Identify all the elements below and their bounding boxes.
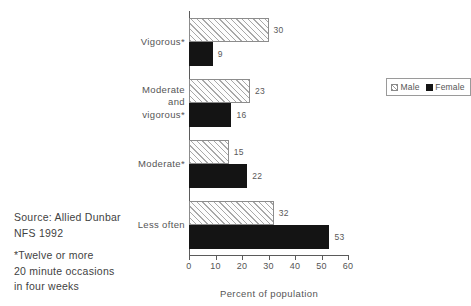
source-and-footnote-block: Source: Allied Dunbar NFS 1992 *Twelve o… <box>14 210 179 295</box>
footnote-line-3: in four weeks <box>14 279 179 295</box>
bar-value-label: 23 <box>255 86 265 96</box>
x-axis-tick <box>295 256 296 260</box>
source-line-2: NFS 1992 <box>14 226 179 242</box>
footnote-line-2: 20 minute occasions <box>14 264 179 280</box>
x-axis-title: Percent of population <box>189 288 349 299</box>
bar-male-1 <box>189 79 250 103</box>
category-label-2: Moderate* <box>65 157 185 170</box>
legend-entry-female: Female <box>426 82 465 92</box>
x-axis-tick <box>216 256 217 260</box>
bar-value-label: 32 <box>279 208 289 218</box>
bar-value-label: 16 <box>236 110 246 120</box>
bar-value-label: 15 <box>234 147 244 157</box>
solid-black-swatch-icon <box>426 84 433 91</box>
chart-legend: Male Female <box>386 78 471 96</box>
bar-value-label: 22 <box>252 171 262 181</box>
legend-entry-male: Male <box>391 82 420 92</box>
x-axis-tick <box>348 256 349 260</box>
category-label-line: and <box>65 96 185 109</box>
bar-male-2 <box>189 140 229 164</box>
plot-area: 309231615223253 <box>189 11 348 256</box>
legend-label-male: Male <box>401 82 420 92</box>
x-axis-tick-label: 30 <box>263 261 274 271</box>
category-label-line: Moderate <box>65 84 185 97</box>
category-label-line: Moderate* <box>65 157 185 170</box>
legend-label-female: Female <box>435 82 465 92</box>
bar-female-3 <box>189 225 329 249</box>
category-label-line: Vigorous* <box>65 35 185 48</box>
bar-value-label: 9 <box>218 49 223 59</box>
footnote-line-1: *Twelve or more <box>14 248 179 264</box>
source-line-1: Source: Allied Dunbar <box>14 210 179 226</box>
bar-female-0 <box>189 42 213 66</box>
x-axis-tick-label: 40 <box>290 261 301 271</box>
x-axis-tick <box>242 256 243 260</box>
category-label-1: Moderateandvigorous* <box>65 84 185 122</box>
bar-female-1 <box>189 103 231 127</box>
x-axis-tick-label: 60 <box>343 261 354 271</box>
category-label-0: Vigorous* <box>65 35 185 48</box>
x-axis-tick <box>322 256 323 260</box>
bar-value-label: 30 <box>274 25 284 35</box>
bar-male-0 <box>189 18 269 42</box>
category-label-line: vigorous* <box>65 109 185 122</box>
x-axis-tick <box>269 256 270 260</box>
bar-value-label: 53 <box>334 232 344 242</box>
bar-female-2 <box>189 164 247 188</box>
bar-male-3 <box>189 201 274 225</box>
x-axis-tick-label: 20 <box>237 261 248 271</box>
x-axis-tick-label: 10 <box>210 261 221 271</box>
x-axis-tick-label: 50 <box>316 261 327 271</box>
hatched-swatch-icon <box>391 84 398 91</box>
x-axis-tick-label: 0 <box>186 261 191 271</box>
x-axis-tick <box>189 256 190 260</box>
